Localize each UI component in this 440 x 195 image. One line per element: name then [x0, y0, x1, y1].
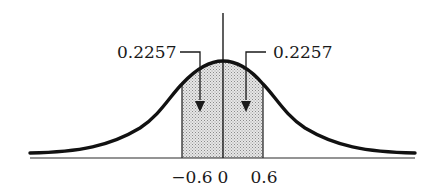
- tick-label-pos: 0.6: [250, 167, 277, 187]
- normal-curve-diagram: 0.2257 0.2257 −0.6 0 0.6: [0, 0, 440, 195]
- left-area-label: 0.2257: [117, 42, 176, 62]
- diagram-svg: 0.2257 0.2257 −0.6 0 0.6: [0, 0, 440, 195]
- right-area-label: 0.2257: [273, 42, 332, 62]
- tick-label-zero: 0: [218, 167, 229, 187]
- tick-label-neg: −0.6: [171, 167, 212, 187]
